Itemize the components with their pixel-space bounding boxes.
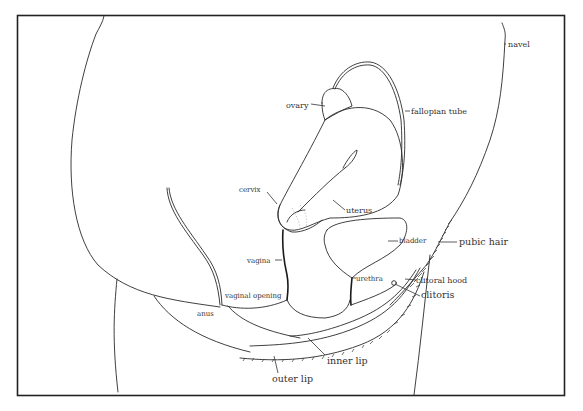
fallopian-tube-inner xyxy=(335,65,402,185)
inner-lip-curve-2 xyxy=(290,270,416,336)
clitoris-leader xyxy=(395,284,420,296)
label-fallopian-tube: fallopian tube xyxy=(411,107,467,116)
belly-outline xyxy=(450,23,505,222)
label-anus: anus xyxy=(197,310,214,318)
ovary-shape xyxy=(322,88,352,120)
back-outline xyxy=(71,16,220,307)
inner-lip-leader xyxy=(308,338,325,355)
label-uterus: uterus xyxy=(346,206,372,215)
cervix-shading xyxy=(292,205,307,230)
label-outer-lip: outer lip xyxy=(272,373,313,384)
vaginal-floor xyxy=(287,300,350,318)
vaginal-wall xyxy=(283,230,288,300)
label-clitoral-hood: clitoral hood xyxy=(416,276,467,285)
gluteal-cleft xyxy=(167,188,220,305)
diagram-frame xyxy=(18,16,565,396)
label-urethra: urethra xyxy=(356,275,383,283)
ovary-leader xyxy=(311,104,325,106)
label-vagina: vagina xyxy=(246,257,271,265)
thigh-outline xyxy=(114,279,118,392)
urethra-line xyxy=(351,278,352,305)
gluteal-cleft-inner xyxy=(169,188,222,305)
label-inner-lip: inner lip xyxy=(327,355,368,366)
label-clitoris: clitoris xyxy=(421,289,455,300)
label-cervix: cervix xyxy=(239,186,261,194)
cervix-lobe-inner xyxy=(287,210,305,222)
uterine-canal xyxy=(298,168,345,212)
label-bladder: bladder xyxy=(399,237,427,245)
outer-lip-curve xyxy=(240,272,424,360)
inner-lip-curve xyxy=(250,268,420,346)
cervix-leader xyxy=(267,192,277,204)
label-vaginal-opening: vaginal opening xyxy=(224,292,282,300)
bladder-shape xyxy=(324,218,407,278)
label-ovary: ovary xyxy=(286,101,309,110)
uterus-leader xyxy=(333,200,345,210)
labia-lower-curve xyxy=(228,306,300,338)
perineum-line xyxy=(222,300,287,308)
anatomy-diagram: navel ovary fallopian tube cervix uterus… xyxy=(0,0,583,411)
label-navel: navel xyxy=(508,40,530,49)
outer-lip-leader xyxy=(274,356,278,373)
label-pubic-hair: pubic hair xyxy=(459,236,508,247)
uterine-cavity xyxy=(343,150,357,168)
